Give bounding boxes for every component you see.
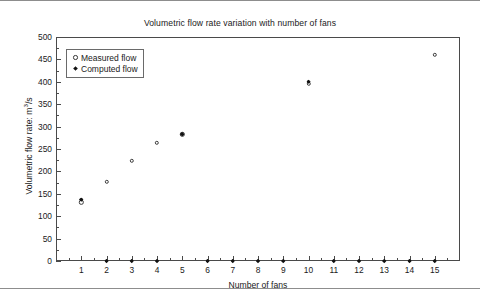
x-axis-tick-label: 15 <box>430 265 439 275</box>
y-axis-minor-tick <box>56 93 59 94</box>
x-axis-minor-tick <box>144 258 145 261</box>
x-axis-minor-tick <box>271 258 272 261</box>
y-axis-tick <box>56 194 61 195</box>
y-axis-tick-label: 450 <box>38 54 52 64</box>
legend-item-measured-flow: Measured flow <box>71 52 138 63</box>
chart-figure: Volumetric flow rate variation with numb… <box>0 9 480 287</box>
x-axis-tick-label: 2 <box>104 265 109 275</box>
y-axis-minor-tick <box>56 138 59 139</box>
data-point-computed <box>407 259 412 264</box>
y-axis-tick <box>56 59 61 60</box>
y-axis-minor-tick <box>56 227 59 228</box>
y-axis-minor-tick <box>56 250 59 251</box>
x-axis-minor-tick <box>220 258 221 261</box>
data-point-computed <box>432 259 437 264</box>
data-point-measured <box>155 141 159 145</box>
x-axis-minor-tick <box>195 258 196 261</box>
y-axis-minor-tick <box>56 48 59 49</box>
y-axis-minor-tick <box>56 205 59 206</box>
y-axis-title: Volumetric flow rate: m3/s <box>22 71 34 221</box>
x-axis-tick-label: 7 <box>230 265 235 275</box>
y-axis-minor-tick <box>56 71 59 72</box>
y-axis-tick <box>56 37 61 38</box>
x-axis-title: Number of fans <box>56 280 460 290</box>
x-axis-minor-tick <box>69 258 70 261</box>
y-axis-tick-label: 50 <box>43 234 52 244</box>
y-axis-tick <box>56 261 61 262</box>
x-axis-tick-label: 14 <box>405 265 414 275</box>
x-axis-tick <box>309 256 310 261</box>
data-point-computed <box>357 259 362 264</box>
x-axis-tick-label: 9 <box>281 265 286 275</box>
filled-diamond-marker-icon <box>71 66 80 71</box>
x-axis-minor-tick <box>346 258 347 261</box>
y-axis-tick-label: 200 <box>38 166 52 176</box>
x-axis-tick-label: 8 <box>256 265 261 275</box>
x-axis-minor-tick <box>245 258 246 261</box>
legend-label-computed-flow: Computed flow <box>81 64 138 74</box>
y-axis-tick-label: 150 <box>38 189 52 199</box>
y-axis-tick-label: 500 <box>38 32 52 42</box>
x-axis-tick-label: 11 <box>329 265 338 275</box>
y-axis-title-superscript: 3 <box>22 104 29 107</box>
y-axis-minor-tick <box>56 183 59 184</box>
x-axis-minor-tick <box>296 258 297 261</box>
y-axis-tick-label: 100 <box>38 211 52 221</box>
legend-item-computed-flow: Computed flow <box>71 63 138 74</box>
x-axis-tick-label: 10 <box>304 265 313 275</box>
chart-title: Volumetric flow rate variation with numb… <box>0 18 480 28</box>
y-axis-minor-tick <box>56 115 59 116</box>
legend-label-measured-flow: Measured flow <box>81 53 136 63</box>
y-axis-tick <box>56 127 61 128</box>
data-point-computed <box>281 259 286 264</box>
y-axis-tick <box>56 216 61 217</box>
x-axis-tick <box>182 256 183 261</box>
y-axis-tick <box>56 82 61 83</box>
y-axis-minor-tick <box>56 160 59 161</box>
data-point-computed <box>155 259 160 264</box>
data-point-computed <box>331 259 336 264</box>
open-circle-marker-icon <box>71 55 80 59</box>
data-point-computed <box>205 259 210 264</box>
top-divider-rule <box>0 0 480 1</box>
x-axis-tick-label: 1 <box>79 265 84 275</box>
x-axis-minor-tick <box>422 258 423 261</box>
x-axis-minor-tick <box>447 258 448 261</box>
y-axis-title-suffix: /s <box>24 97 34 104</box>
y-axis-tick <box>56 239 61 240</box>
chart-legend: Measured flow Computed flow <box>66 49 144 78</box>
data-point-computed <box>104 259 109 264</box>
data-point-measured <box>130 158 134 162</box>
x-axis-tick <box>81 256 82 261</box>
y-axis-tick <box>56 171 61 172</box>
x-axis-minor-tick <box>170 258 171 261</box>
data-point-measured <box>104 180 108 184</box>
data-point-computed <box>230 259 235 264</box>
y-axis-tick <box>56 149 61 150</box>
y-axis-tick <box>56 104 61 105</box>
y-axis-tick-label: 300 <box>38 122 52 132</box>
y-axis-tick-label: 0 <box>47 256 52 266</box>
data-point-computed <box>129 259 134 264</box>
data-point-computed <box>382 259 387 264</box>
x-axis-tick-label: 4 <box>155 265 160 275</box>
x-axis-tick-label: 13 <box>380 265 389 275</box>
x-axis-tick-label: 3 <box>129 265 134 275</box>
data-point-computed <box>256 259 261 264</box>
y-axis-tick-label: 250 <box>38 144 52 154</box>
x-axis-minor-tick <box>397 258 398 261</box>
x-axis-tick-label: 12 <box>354 265 363 275</box>
y-axis-tick-label: 350 <box>38 99 52 109</box>
x-axis-tick-labels: 123456789101112131415 <box>56 265 460 279</box>
x-axis-minor-tick <box>321 258 322 261</box>
y-axis-title-text: Volumetric flow rate: m <box>24 108 34 195</box>
x-axis-tick-label: 5 <box>180 265 185 275</box>
x-axis-minor-tick <box>94 258 95 261</box>
data-point-measured <box>433 53 437 57</box>
x-axis-minor-tick <box>372 258 373 261</box>
x-axis-tick-label: 6 <box>205 265 210 275</box>
x-axis-minor-tick <box>119 258 120 261</box>
y-axis-tick-label: 400 <box>38 77 52 87</box>
